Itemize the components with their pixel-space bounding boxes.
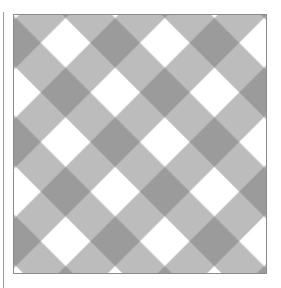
left-divider-line — [3, 12, 4, 288]
gingham-pattern-graphic — [14, 15, 266, 273]
diagonal-band-set-b — [14, 15, 266, 273]
gingham-pattern-image — [13, 14, 267, 274]
